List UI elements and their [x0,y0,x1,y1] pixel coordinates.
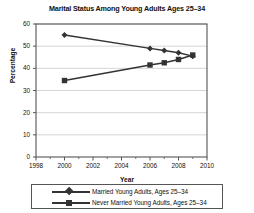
chart-figure: Marital Status Among Young Adults Ages 2… [0,0,254,213]
plot-area [0,0,254,213]
legend-item-married: Married Young Adults, Ages 25–34 [32,186,224,197]
legend-label-never-married: Never Married Young Adults, Ages 25–34 [92,199,207,206]
chart-legend: Married Young Adults, Ages 25–34 Never M… [31,184,223,209]
diamond-marker-icon [50,186,92,197]
legend-label-married: Married Young Adults, Ages 25–34 [92,188,188,195]
square-marker-icon [50,197,92,208]
legend-item-never-married: Never Married Young Adults, Ages 25–34 [32,197,224,208]
